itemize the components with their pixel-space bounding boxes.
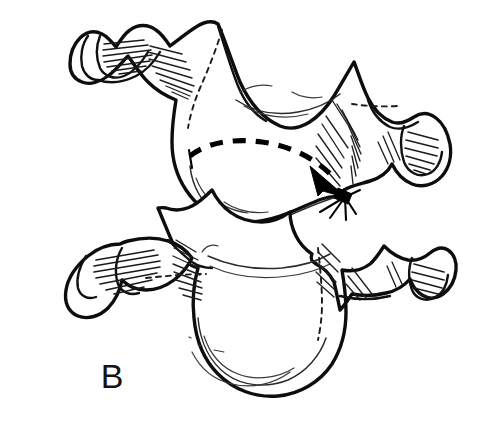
vertebrae-illustration: B <box>0 0 486 421</box>
figure-container: B <box>0 0 486 421</box>
panel-label-b: B <box>101 357 124 395</box>
rotation-arrow-ray-3 <box>345 197 346 220</box>
